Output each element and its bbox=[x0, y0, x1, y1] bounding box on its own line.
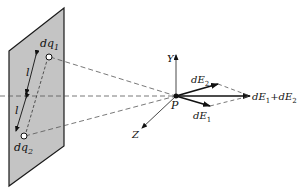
parallelogram-dash-top bbox=[218, 84, 250, 96]
vector-dE1 bbox=[176, 96, 210, 106]
label-z-axis: Z bbox=[131, 129, 140, 140]
dashed-line-dq1-to-p bbox=[50, 57, 176, 96]
point-p bbox=[174, 94, 179, 99]
label-point-p: P bbox=[170, 99, 179, 112]
diagram-svg: dq1 dq2 l l P Y Z dE2 dE1 dE1+dE2 bbox=[0, 0, 305, 189]
diagram-canvas: dq1 dq2 l l P Y Z dE2 dE1 dE1+dE2 bbox=[0, 0, 305, 189]
label-resultant: dE1+dE2 bbox=[252, 91, 297, 105]
label-dE1: dE1 bbox=[193, 110, 211, 124]
label-l-bottom: l bbox=[15, 104, 19, 117]
charge-dq1 bbox=[46, 54, 52, 60]
charge-dq2 bbox=[21, 133, 27, 139]
vector-dE2 bbox=[176, 84, 218, 96]
label-dE2: dE2 bbox=[191, 74, 209, 88]
parallelogram-dash-bottom bbox=[210, 96, 250, 106]
label-l-top: l bbox=[26, 66, 30, 79]
label-y-axis: Y bbox=[167, 53, 175, 64]
